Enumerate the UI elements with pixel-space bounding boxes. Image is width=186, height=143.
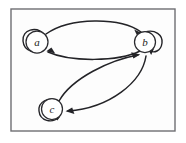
node-a[interactable]: a [26,31,48,53]
figure-frame [11,9,175,131]
node-b-label: b [142,36,148,48]
node-c[interactable]: c [42,99,63,120]
node-a-label: a [34,36,40,48]
node-c-label: c [50,103,55,115]
node-b[interactable]: b [135,32,156,53]
state-transition-diagram: a b c [0,0,186,143]
figure-container: a b c [0,0,186,143]
